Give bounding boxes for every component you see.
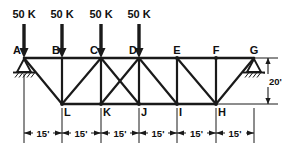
bottom-chord-node-labels: L K J I H [64,106,226,118]
span-label-1: 15' [37,128,50,139]
node-label-I: I [179,106,182,118]
node-label-A: A [13,44,21,56]
vdim-arrow-up [265,58,270,64]
member-diagonal-A-L [24,58,62,104]
load-label-D: 50 K [127,8,150,20]
joint-E [175,56,179,60]
load-label-C: 50 K [89,8,112,20]
node-label-F: F [213,44,220,56]
span-label-5: 15' [190,128,203,139]
span-label-2: 15' [75,128,88,139]
node-label-B: B [52,44,60,56]
span-label-6: 15' [229,128,242,139]
truss-diagram: 50 K 50 K 50 K 50 K A B C D E F G L K J … [0,0,283,146]
load-labels: 50 K 50 K 50 K 50 K [12,8,150,20]
joint-F [214,56,218,60]
truss-members [24,58,254,104]
member-diagonal-D-I [139,58,177,104]
load-arrows [20,24,144,58]
member-diagonal-H-G [216,58,254,104]
member-diagonal-L-C [62,58,101,104]
node-label-J: J [141,106,147,118]
node-label-L: L [64,106,71,118]
span-label-3: 15' [114,128,127,139]
node-label-C: C [90,44,98,56]
load-label-A: 50 K [12,8,35,20]
vdim-arrow-down [265,98,270,104]
span-label-4: 15' [152,128,165,139]
member-diagonal-E-H [177,58,216,104]
load-label-B: 50 K [50,8,73,20]
node-label-D: D [129,44,137,56]
node-label-G: G [250,44,259,56]
node-label-H: H [218,106,226,118]
vertical-dimension-label: 20' [269,76,282,87]
pin-support-hatching [15,73,35,78]
truss-svg: 50 K 50 K 50 K 50 K A B C D E F G L K J … [0,0,283,146]
top-chord-node-labels: A B C D E F G [13,44,258,56]
node-label-K: K [103,106,111,118]
node-label-E: E [173,44,180,56]
